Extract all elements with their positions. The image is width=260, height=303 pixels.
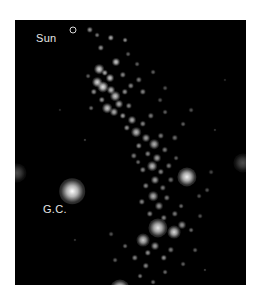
- star-icon: [197, 194, 202, 199]
- star-icon: [123, 244, 128, 249]
- star-icon: [198, 214, 203, 219]
- star-icon: [174, 156, 179, 161]
- star-icon: [73, 238, 76, 241]
- star-icon: [128, 116, 136, 124]
- star-icon: [181, 262, 186, 267]
- star-icon: [136, 143, 142, 149]
- star-icon: [203, 268, 206, 271]
- star-icon: [137, 234, 150, 247]
- star-icon: [177, 167, 196, 186]
- star-icon: [120, 72, 126, 78]
- star-icon: [131, 127, 141, 137]
- star-icon: [138, 274, 143, 279]
- star-icon: [179, 204, 184, 209]
- star-icon: [106, 74, 114, 82]
- star-icon: [98, 45, 104, 51]
- star-icon: [86, 74, 91, 79]
- star-icon: [140, 121, 146, 127]
- star-icon: [168, 247, 174, 253]
- star-icon: [160, 185, 166, 191]
- star-icon: [155, 202, 163, 210]
- sun-label: Sun: [36, 32, 56, 44]
- edge-glow-icon: [233, 153, 246, 172]
- star-icon: [109, 232, 114, 237]
- star-icon: [148, 113, 154, 119]
- star-icon: [168, 177, 174, 183]
- star-icon: [59, 178, 85, 204]
- star-icon: [162, 147, 168, 153]
- star-icon: [126, 103, 132, 109]
- star-icon: [151, 242, 159, 250]
- sun-marker-icon: [70, 27, 77, 34]
- star-icon: [99, 97, 105, 103]
- star-icon: [124, 125, 130, 131]
- star-icon: [140, 167, 146, 173]
- star-icon: [161, 215, 167, 221]
- star-icon: [91, 89, 97, 95]
- star-icon: [147, 161, 157, 171]
- star-icon: [151, 70, 156, 75]
- star-icon: [145, 250, 151, 256]
- star-icon: [135, 62, 140, 67]
- edge-glow-icon: [15, 163, 27, 182]
- star-icon: [87, 27, 93, 33]
- star-icon: [108, 35, 114, 41]
- star-icon: [145, 151, 151, 157]
- star-icon: [122, 89, 128, 95]
- star-icon: [223, 78, 226, 81]
- star-icon: [213, 128, 216, 131]
- star-icon: [158, 169, 164, 175]
- star-icon: [193, 248, 198, 253]
- star-icon: [189, 108, 194, 113]
- star-icon: [158, 98, 163, 103]
- star-icon: [149, 139, 159, 149]
- star-icon: [181, 122, 186, 127]
- star-icon: [83, 138, 86, 141]
- star-icon: [161, 255, 167, 261]
- star-icon: [132, 255, 138, 261]
- galactic-center-label: G.C.: [43, 203, 67, 215]
- star-icon: [209, 170, 214, 175]
- star-icon: [148, 191, 158, 201]
- star-icon: [166, 163, 172, 169]
- star-icon: [123, 38, 128, 43]
- star-icon: [163, 270, 168, 275]
- star-icon: [163, 110, 168, 115]
- star-icon: [128, 83, 134, 89]
- star-icon: [139, 199, 145, 205]
- star-icon: [143, 183, 149, 189]
- star-icon: [178, 221, 186, 229]
- star-icon: [172, 211, 178, 217]
- star-icon: [126, 52, 131, 57]
- star-icon: [172, 135, 178, 141]
- star-icon: [189, 228, 194, 233]
- star-icon: [164, 195, 170, 201]
- star-icon: [151, 176, 159, 184]
- star-icon: [110, 108, 118, 116]
- star-icon: [113, 258, 118, 263]
- star-icon: [148, 218, 167, 237]
- star-icon: [151, 280, 156, 285]
- star-icon: [120, 113, 126, 119]
- star-icon: [89, 106, 94, 111]
- star-icon: [131, 153, 137, 159]
- star-icon: [205, 188, 210, 193]
- star-icon: [58, 108, 61, 111]
- star-icon: [147, 211, 153, 217]
- star-icon: [136, 77, 142, 83]
- star-field-panel: Sun G.C.: [15, 20, 246, 285]
- star-icon: [163, 86, 168, 91]
- star-icon: [143, 263, 149, 269]
- star-icon: [95, 33, 100, 38]
- star-icon: [140, 89, 146, 95]
- star-icon: [136, 160, 141, 165]
- star-icon: [158, 133, 164, 139]
- star-icon: [112, 58, 120, 66]
- star-icon: [110, 279, 129, 285]
- star-icon: [115, 100, 123, 108]
